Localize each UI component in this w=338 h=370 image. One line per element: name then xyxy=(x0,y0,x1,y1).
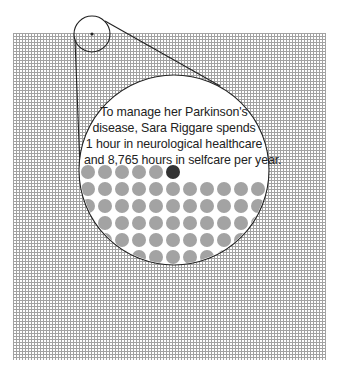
hour-dot xyxy=(98,182,112,196)
hour-dot xyxy=(234,233,248,247)
hour-dot xyxy=(200,199,214,213)
hour-dot xyxy=(234,182,248,196)
caption-text: To manage her Parkinson's disease, Sara … xyxy=(84,104,264,168)
hour-dot xyxy=(115,199,129,213)
hour-dot xyxy=(200,216,214,230)
hour-dot xyxy=(149,182,163,196)
hour-dot xyxy=(166,182,180,196)
hour-dot xyxy=(217,250,231,264)
hour-dot xyxy=(149,216,163,230)
magnifier-diagram xyxy=(0,0,338,370)
hour-dot xyxy=(98,216,112,230)
hour-dot xyxy=(132,182,146,196)
hour-dot xyxy=(166,250,180,264)
hour-dot xyxy=(132,233,146,247)
hour-dot xyxy=(183,233,197,247)
hour-dot xyxy=(217,182,231,196)
connector-line-left xyxy=(75,40,80,168)
hour-dot xyxy=(81,250,95,264)
hour-dot xyxy=(81,233,95,247)
hour-dot xyxy=(132,250,146,264)
hour-dot xyxy=(81,182,95,196)
hour-dot xyxy=(183,182,197,196)
hour-dot xyxy=(217,199,231,213)
hour-dot xyxy=(132,216,146,230)
hour-dot xyxy=(183,216,197,230)
selected-hour-dot-small xyxy=(90,32,93,35)
caption-line-3: 1 hour in neurological healthcare xyxy=(84,136,264,152)
hour-dot xyxy=(200,233,214,247)
caption-line-2: disease, Sara Riggare spends xyxy=(84,120,264,136)
hour-dot xyxy=(98,199,112,213)
hour-dot xyxy=(234,216,248,230)
hour-dot xyxy=(200,182,214,196)
hour-dot xyxy=(251,182,265,196)
hour-dot xyxy=(234,250,248,264)
hour-dot xyxy=(115,216,129,230)
hour-dot xyxy=(166,199,180,213)
hour-dot xyxy=(251,250,265,264)
hour-dot xyxy=(98,250,112,264)
caption-line-4: and 8,765 hours in selfcare per year. xyxy=(84,152,264,168)
hour-dot xyxy=(149,199,163,213)
hour-dot xyxy=(166,216,180,230)
hour-dot xyxy=(234,199,248,213)
hour-dot xyxy=(183,199,197,213)
hour-dot xyxy=(217,233,231,247)
hour-dot xyxy=(251,233,265,247)
hour-dot xyxy=(217,216,231,230)
hour-dot xyxy=(166,233,180,247)
hour-dot xyxy=(149,233,163,247)
caption-line-1: To manage her Parkinson's xyxy=(84,104,264,120)
hour-dot xyxy=(115,182,129,196)
hour-dot xyxy=(132,199,146,213)
